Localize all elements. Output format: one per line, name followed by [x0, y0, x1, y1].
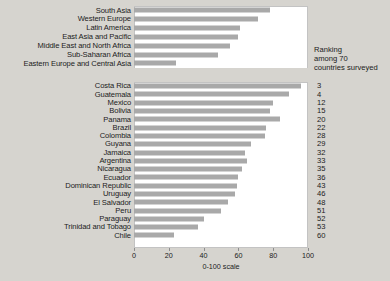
category-label: El Salvador — [0, 199, 134, 207]
bar — [134, 225, 198, 230]
rank-value: 3 — [308, 82, 368, 90]
category-label: Latin America — [0, 24, 134, 32]
bar-cell — [134, 15, 308, 24]
rank-value: 15 — [308, 107, 368, 115]
category-label: Guyana — [0, 140, 134, 148]
chart-row: Chile60 — [0, 231, 390, 239]
chart-row: Dominican Republic43 — [0, 182, 390, 190]
chart-row: Costa Rica3 — [0, 82, 390, 90]
bar-cell — [134, 182, 308, 190]
bar — [134, 142, 251, 147]
category-label: Sub-Saharan Africa — [0, 51, 134, 59]
countries-panel: Costa Rica3Guatemala4Mexico12Bolivia15Pa… — [0, 82, 390, 248]
bar-cell — [134, 6, 308, 15]
bar-cell — [134, 190, 308, 198]
bar-cell — [134, 215, 308, 223]
bar-cell — [134, 198, 308, 206]
bar — [134, 167, 242, 172]
category-label: Western Europe — [0, 15, 134, 23]
category-label: Nicaragua — [0, 165, 134, 173]
bar — [134, 84, 301, 89]
x-axis: 0-100 scale 020406080100 — [134, 248, 308, 278]
ranking-caption-line-2: among 70 — [314, 54, 390, 63]
chart-row: South Asia — [0, 6, 390, 15]
bar-cell — [134, 148, 308, 156]
bar — [134, 109, 270, 114]
bar — [134, 117, 280, 122]
bar — [134, 43, 230, 48]
chart-row: Guyana29 — [0, 140, 390, 148]
bar-cell — [134, 107, 308, 115]
bar-cell — [134, 132, 308, 140]
bar-cell — [134, 41, 308, 50]
bar — [134, 34, 238, 39]
chart-row: Guatemala4 — [0, 90, 390, 98]
chart-row: El Salvador48 — [0, 198, 390, 206]
x-axis-title: 0-100 scale — [202, 263, 239, 270]
ranking-caption-line-1: Ranking — [314, 45, 390, 54]
category-label: Uruguay — [0, 190, 134, 198]
bar-cell — [134, 157, 308, 165]
bar — [134, 17, 258, 22]
bar-cell — [134, 231, 308, 239]
bar — [134, 125, 266, 130]
rank-value: 53 — [308, 223, 368, 231]
bar-cell — [134, 99, 308, 107]
bar — [134, 8, 270, 13]
bar-cell — [134, 24, 308, 33]
bar-cell — [134, 206, 308, 214]
category-label: South Asia — [0, 7, 134, 15]
bar — [134, 158, 247, 163]
category-label: Trinidad and Tobago — [0, 223, 134, 231]
chart-row: Western Europe — [0, 15, 390, 24]
bar-cell — [134, 50, 308, 59]
bar — [134, 208, 221, 213]
chart-row: Uruguay46 — [0, 190, 390, 198]
chart-row: Mexico12 — [0, 99, 390, 107]
bar — [134, 100, 273, 105]
bar — [134, 92, 289, 97]
category-label: Chile — [0, 232, 134, 240]
rank-value: 20 — [308, 116, 368, 124]
bar — [134, 133, 265, 138]
rank-value: 35 — [308, 165, 368, 173]
bar — [134, 150, 245, 155]
chart-row: Ecuador36 — [0, 173, 390, 181]
rank-value: 46 — [308, 190, 368, 198]
category-label: East Asia and Pacific — [0, 33, 134, 41]
category-label: Bolivia — [0, 107, 134, 115]
chart-row: Brazil22 — [0, 123, 390, 131]
chart-row: Trinidad and Tobago53 — [0, 223, 390, 231]
bar-cell — [134, 173, 308, 181]
x-axis-tick-label: 100 — [302, 252, 314, 259]
x-axis-tick-label: 20 — [165, 252, 173, 259]
bar — [134, 233, 174, 238]
rank-value: 48 — [308, 199, 368, 207]
bar-cell — [134, 165, 308, 173]
bar — [134, 26, 240, 31]
x-axis-tick-label: 40 — [200, 252, 208, 259]
bar — [134, 200, 228, 205]
x-axis-tick-label: 80 — [269, 252, 277, 259]
chart-row: Jamaica32 — [0, 148, 390, 156]
bar — [134, 216, 204, 221]
category-label: Middle East and North Africa — [0, 42, 134, 50]
chart-row: Peru51 — [0, 206, 390, 214]
bar — [134, 52, 218, 57]
x-axis-tick-label: 60 — [234, 252, 242, 259]
category-label: Costa Rica — [0, 82, 134, 90]
rank-value: 60 — [308, 232, 368, 240]
ranking-caption-line-3: countries surveyed — [314, 63, 390, 72]
bar — [134, 61, 176, 66]
ranking-caption: Ranking among 70 countries surveyed — [314, 45, 390, 73]
bar-cell — [134, 123, 308, 131]
bar-cell — [134, 140, 308, 148]
chart-row: Bolivia15 — [0, 107, 390, 115]
bar-cell — [134, 90, 308, 98]
bar — [134, 175, 238, 180]
rank-value: 29 — [308, 140, 368, 148]
category-label: Eastern Europe and Central Asia — [0, 60, 134, 68]
bar-cell — [134, 115, 308, 123]
bar-chart: South AsiaWestern EuropeLatin AmericaEas… — [0, 0, 390, 281]
chart-row: Paraguay52 — [0, 215, 390, 223]
